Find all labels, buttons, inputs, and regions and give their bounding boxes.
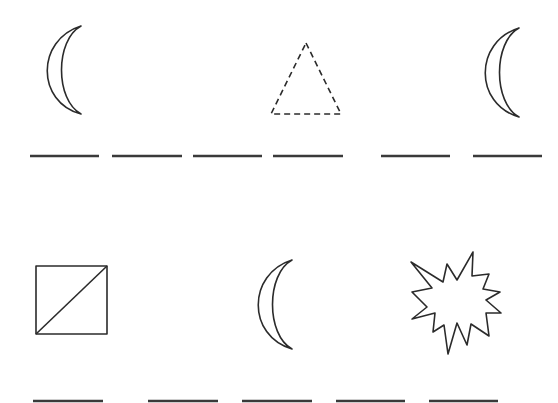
starburst-icon — [411, 252, 501, 354]
row-1 — [47, 26, 519, 117]
crescent-icon — [47, 26, 81, 114]
worksheet-canvas — [0, 0, 558, 403]
row-2 — [36, 252, 501, 354]
crescent-icon — [258, 260, 292, 349]
square-with-diagonal-icon — [36, 266, 107, 334]
crescent-icon — [485, 28, 519, 117]
dashed-triangle-icon — [271, 43, 341, 114]
